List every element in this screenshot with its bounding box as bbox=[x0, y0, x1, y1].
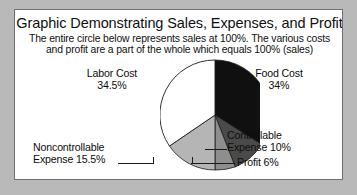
pie-label-labor-cost-name: Labor Cost bbox=[57, 67, 167, 79]
pie-label-controllable-expense: Controllable Expense 10% bbox=[227, 129, 335, 153]
pie-label-controllable-line-2: Expense 10% bbox=[227, 141, 335, 153]
pie-label-food-cost: Food Cost 34% bbox=[231, 67, 327, 91]
pie-label-labor-cost: Labor Cost 34.5% bbox=[57, 67, 167, 91]
pie-label-labor-cost-value: 34.5% bbox=[57, 79, 167, 91]
leader-line-noncontrollable-horizontal bbox=[118, 163, 154, 164]
pie-label-controllable-line-1: Controllable bbox=[227, 129, 335, 141]
leader-line-profit-horizontal bbox=[191, 163, 235, 164]
leader-line-noncontrollable-tick bbox=[153, 157, 154, 164]
leader-line-profit-tick bbox=[192, 157, 193, 164]
pie-label-noncontrollable-expense: Noncontrollable Expense 15.5% bbox=[33, 141, 161, 165]
pie-label-profit: Profit 6% bbox=[237, 156, 327, 168]
pie-label-food-cost-value: 34% bbox=[231, 79, 327, 91]
pie-label-food-cost-name: Food Cost bbox=[231, 67, 327, 79]
chart-figure: Graphic Demonstrating Sales, Expenses, a… bbox=[14, 9, 343, 180]
leader-line-controllable-horizontal bbox=[205, 149, 227, 150]
pie-label-noncontrollable-line-1: Noncontrollable bbox=[33, 141, 161, 153]
pie-chart-area: Labor Cost 34.5% Food Cost 34% Noncontro… bbox=[15, 10, 343, 180]
